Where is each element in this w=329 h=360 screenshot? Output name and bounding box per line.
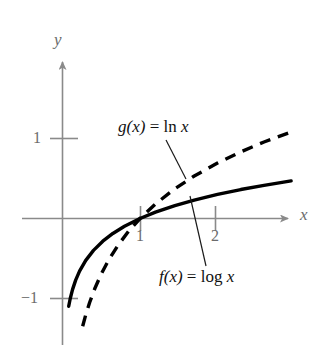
curve-label-f: f(x) = log x: [159, 268, 234, 285]
y-axis-label: y: [54, 31, 62, 48]
log-function-graph-figure: y x 1 −1 1 2 g(x) = ln x f(x) = log x: [0, 0, 329, 360]
curve-f-log-x: [69, 181, 291, 306]
leader-line-f: [190, 196, 206, 266]
curve-label-f-variable: x: [227, 267, 235, 286]
curve-label-f-function: f(x): [159, 267, 183, 286]
x-axis-label: x: [300, 206, 308, 223]
x-tick-label-1: 1: [136, 228, 144, 244]
curve-label-f-equals: =: [183, 267, 201, 286]
curve-label-g-function: g(x): [118, 117, 145, 136]
curve-label-g-operator: ln: [163, 117, 176, 136]
curve-g-ln-x: [83, 132, 291, 326]
curves-group: [69, 132, 291, 326]
curve-label-g: g(x) = ln x: [118, 118, 189, 135]
x-tick-label-2: 2: [211, 228, 219, 244]
y-tick-label-neg1: −1: [21, 290, 38, 306]
graph-canvas: [0, 0, 329, 360]
y-tick-label-1: 1: [33, 130, 41, 146]
curve-label-f-operator: log: [201, 267, 223, 286]
axes-group: [22, 62, 288, 345]
curve-label-g-equals: =: [145, 117, 163, 136]
curve-label-g-variable: x: [181, 117, 189, 136]
leader-line-g: [166, 140, 186, 179]
